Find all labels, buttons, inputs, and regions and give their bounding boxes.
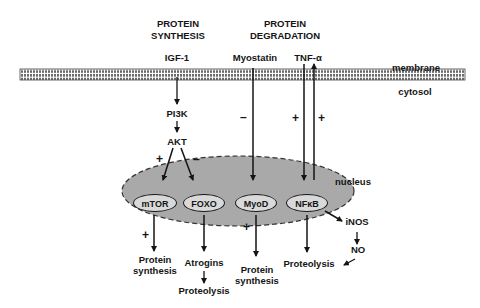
arrow-nfkb-inos bbox=[325, 211, 342, 221]
header-synthesis-line1: PROTEIN bbox=[150, 18, 206, 30]
myod-out-line2: synthesis bbox=[234, 275, 280, 286]
sign-tnf-in: + bbox=[292, 112, 299, 124]
node-nfkb: NFκB bbox=[286, 194, 328, 212]
label-nucleus: nucleus bbox=[328, 176, 378, 187]
label-myostatin: Myostatin bbox=[230, 52, 280, 63]
myod-out-line1: Protein bbox=[234, 264, 280, 275]
label-foxo-proteolysis: Proteolysis bbox=[176, 285, 232, 296]
arrow-no-proteolysis bbox=[344, 259, 355, 265]
sign-akt-mtor: + bbox=[156, 153, 163, 165]
pathway-diagram bbox=[0, 0, 480, 308]
label-atrogins: Atrogins bbox=[182, 257, 226, 268]
label-igf1: IGF-1 bbox=[160, 52, 194, 63]
label-membrane: membrane bbox=[386, 62, 446, 73]
label-tnfa: TNF-α bbox=[290, 52, 326, 63]
sign-tnf-out: + bbox=[318, 112, 325, 124]
header-protein-synthesis: PROTEIN SYNTHESIS bbox=[150, 18, 206, 42]
header-degradation-line2: DEGRADATION bbox=[250, 30, 320, 42]
label-no: NO bbox=[348, 244, 368, 255]
label-cytosol: cytosol bbox=[390, 86, 440, 97]
node-myod: MyoD bbox=[235, 194, 277, 212]
mtor-out-line1: Protein bbox=[133, 254, 177, 265]
sign-mtor-out: + bbox=[142, 229, 149, 241]
node-mtor: mTOR bbox=[133, 194, 177, 212]
label-pi3k: PI3K bbox=[162, 108, 192, 119]
header-protein-degradation: PROTEIN DEGRADATION bbox=[250, 18, 320, 42]
label-nfkb-proteolysis: Proteolysis bbox=[281, 258, 337, 269]
node-foxo: FOXO bbox=[183, 194, 225, 212]
header-synthesis-line2: SYNTHESIS bbox=[150, 30, 206, 42]
mtor-out-line2: synthesis bbox=[133, 265, 177, 276]
nucleus-shape bbox=[122, 156, 354, 226]
label-akt: AKT bbox=[162, 136, 192, 147]
sign-myod-out: + bbox=[243, 221, 250, 233]
label-mtor-protein-synthesis: Protein synthesis bbox=[133, 254, 177, 276]
sign-akt-foxo: – bbox=[193, 153, 200, 165]
sign-myostatin: – bbox=[240, 111, 247, 123]
label-myod-protein-synthesis: Protein synthesis bbox=[234, 264, 280, 286]
header-degradation-line1: PROTEIN bbox=[250, 18, 320, 30]
label-inos: iNOS bbox=[343, 216, 371, 227]
